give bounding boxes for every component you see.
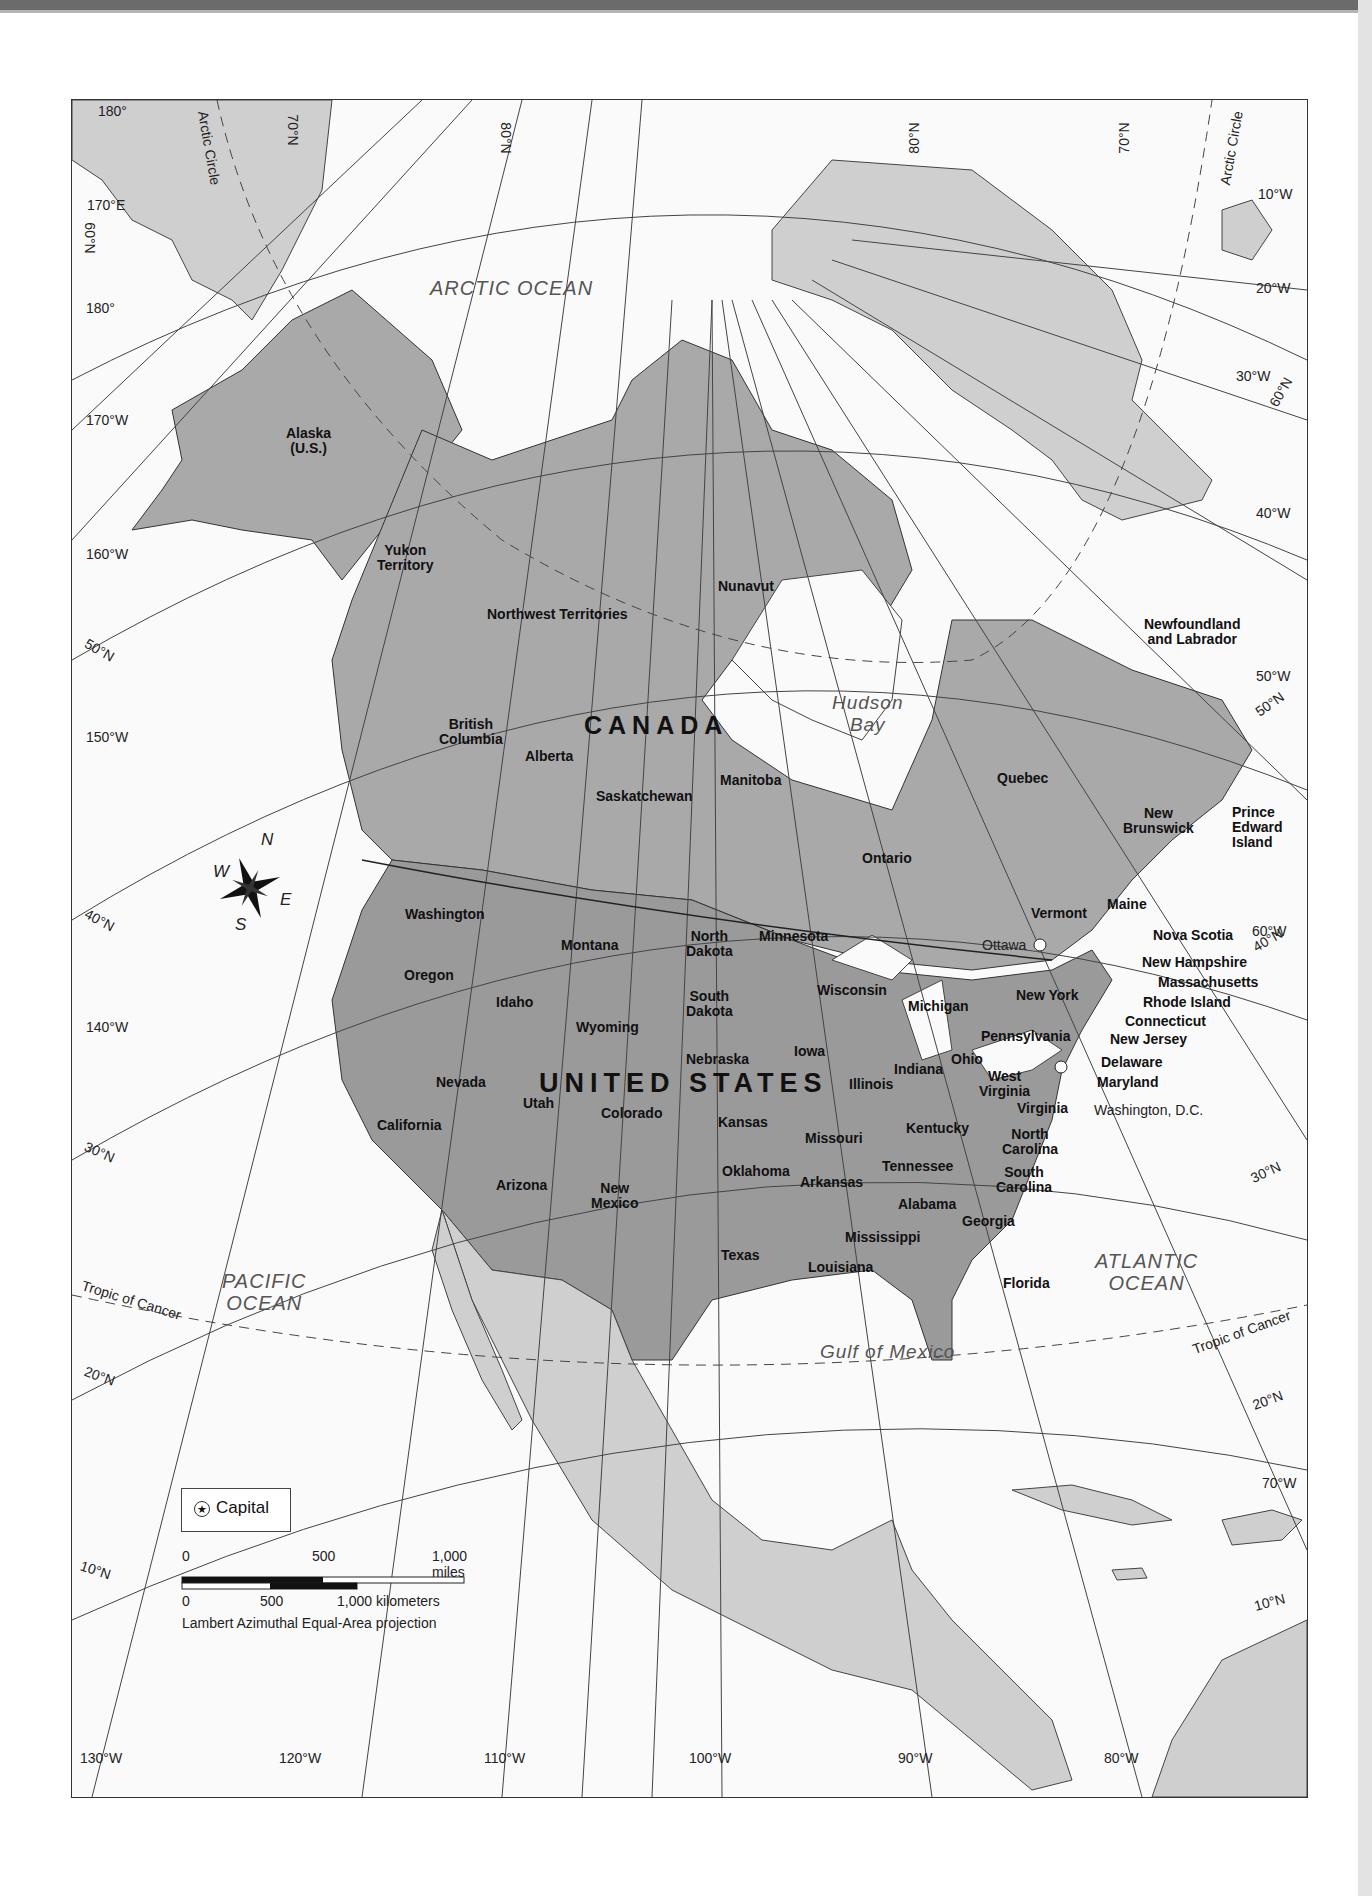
label-alberta: Alberta: [525, 749, 573, 764]
label-virginia: Virginia: [1017, 1101, 1068, 1116]
label-kentucky: Kentucky: [906, 1121, 969, 1136]
grat-70w: 70°W: [1262, 1475, 1296, 1491]
label-united-states: UNITED STATES: [539, 1068, 828, 1099]
label-atlantic-line1: ATLANTIC: [1095, 1250, 1198, 1272]
label-wv-line2: Virginia: [979, 1084, 1030, 1099]
label-nm-line1: New: [591, 1181, 638, 1196]
label-idaho: Idaho: [496, 995, 533, 1010]
label-yukon-line2: Territory: [377, 558, 434, 573]
land-hispaniola: [1222, 1510, 1302, 1545]
label-north-dakota: NorthDakota: [686, 929, 733, 959]
label-nb-line1: New: [1123, 806, 1194, 821]
label-rhode-island: Rhode Island: [1143, 995, 1231, 1010]
land-iceland: [1222, 200, 1272, 260]
legend-capital-label: Capital: [216, 1498, 269, 1518]
compass-rose-icon: [209, 847, 291, 929]
label-sd-line2: Dakota: [686, 1004, 733, 1019]
label-california: California: [377, 1118, 442, 1133]
right-edge: [1358, 0, 1372, 1896]
grat-170e: 170°E: [87, 197, 125, 213]
label-maryland: Maryland: [1097, 1075, 1158, 1090]
label-sc-line1: South: [996, 1165, 1052, 1180]
label-newfoundland: Newfoundlandand Labrador: [1144, 617, 1240, 647]
label-gulf-of-mexico: Gulf of Mexico: [820, 1341, 955, 1363]
label-nfl-line1: Newfoundland: [1144, 617, 1240, 632]
label-pacific-line2: OCEAN: [222, 1292, 306, 1314]
label-delaware: Delaware: [1101, 1055, 1162, 1070]
label-indiana: Indiana: [894, 1062, 943, 1077]
label-montana: Montana: [561, 938, 619, 953]
grat-170w: 170°W: [86, 412, 128, 428]
grat-50w: 50°W: [1256, 668, 1290, 684]
label-wisconsin: Wisconsin: [817, 983, 887, 998]
label-pei-line2: Edward: [1232, 820, 1283, 835]
label-missouri: Missouri: [805, 1131, 863, 1146]
label-new-hampshire: New Hampshire: [1142, 955, 1247, 970]
label-pei-line1: Prince: [1232, 805, 1283, 820]
label-ontario: Ontario: [862, 851, 912, 866]
label-oklahoma: Oklahoma: [722, 1164, 790, 1179]
label-northwest-territories: Northwest Territories: [487, 607, 628, 622]
label-sd-line1: South: [686, 989, 733, 1004]
label-south-carolina: SouthCarolina: [996, 1165, 1052, 1195]
label-quebec: Quebec: [997, 771, 1048, 786]
land-cuba: [1012, 1485, 1172, 1525]
label-hudson-line1: Hudson: [832, 692, 904, 714]
grat-lat-60n-left: 60°N: [82, 222, 98, 253]
label-atlantic-line2: OCEAN: [1095, 1272, 1198, 1294]
label-illinois: Illinois: [849, 1077, 893, 1092]
label-nebraska: Nebraska: [686, 1052, 749, 1067]
grat-160w: 160°W: [86, 546, 128, 562]
label-saskatchewan: Saskatchewan: [596, 789, 693, 804]
grat-90w: 90°W: [898, 1750, 932, 1766]
grat-80w: 80°W: [1104, 1750, 1138, 1766]
label-new-mexico: NewMexico: [591, 1181, 638, 1211]
grat-10w: 10°W: [1258, 186, 1292, 202]
label-alabama: Alabama: [898, 1197, 956, 1212]
label-alaska: Alaska(U.S.): [286, 426, 331, 456]
label-alaska-line2: (U.S.): [286, 441, 331, 456]
land-south-america: [1152, 1620, 1307, 1797]
label-maine: Maine: [1107, 897, 1147, 912]
label-hudson-line2: Bay: [832, 714, 904, 736]
compass-n-label: N: [261, 830, 273, 850]
label-ohio: Ohio: [951, 1052, 983, 1067]
label-new-brunswick: NewBrunswick: [1123, 806, 1194, 836]
map-frame: CANADA UNITED STATES ARCTIC OCEAN PACIFI…: [71, 99, 1308, 1798]
label-nfl-line2: and Labrador: [1144, 632, 1240, 647]
label-arizona: Arizona: [496, 1178, 547, 1193]
label-georgia: Georgia: [962, 1214, 1015, 1229]
label-nc-line1: North: [1002, 1127, 1058, 1142]
label-oregon: Oregon: [404, 968, 454, 983]
grat-left-180-top: 180°: [98, 103, 127, 119]
label-canada: CANADA: [584, 711, 728, 740]
label-nc-line2: Carolina: [1002, 1142, 1058, 1157]
grat-40w: 40°W: [1256, 505, 1290, 521]
compass-w-label: W: [213, 862, 229, 882]
label-prince-edward-island: PrinceEdwardIsland: [1232, 805, 1283, 850]
label-nunavut: Nunavut: [718, 579, 774, 594]
label-pacific-line1: PACIFIC: [222, 1270, 306, 1292]
label-wyoming: Wyoming: [576, 1020, 639, 1035]
land-mexico: [442, 1210, 1072, 1790]
capital-washington-icon: [1055, 1061, 1067, 1073]
scale-km-1000: 1,000 kilometers: [337, 1593, 440, 1609]
label-kansas: Kansas: [718, 1115, 768, 1130]
compass-e-label: E: [280, 890, 291, 910]
label-manitoba: Manitoba: [720, 773, 781, 788]
label-arkansas: Arkansas: [800, 1175, 863, 1190]
label-vermont: Vermont: [1031, 906, 1087, 921]
label-alaska-line1: Alaska: [286, 426, 331, 441]
label-west-virginia: WestVirginia: [979, 1069, 1030, 1099]
label-ottawa: Ottawa: [982, 937, 1026, 953]
label-louisiana: Louisiana: [808, 1260, 873, 1275]
scale-km-500: 500: [260, 1593, 283, 1609]
scale-miles-1000: 1,000 miles: [432, 1548, 482, 1580]
label-connecticut: Connecticut: [1125, 1014, 1206, 1029]
label-washington: Washington: [405, 907, 485, 922]
scale-km-0: 0: [182, 1593, 190, 1609]
label-minnesota: Minnesota: [759, 929, 828, 944]
grat-100w: 100°W: [689, 1750, 731, 1766]
label-colorado: Colorado: [601, 1106, 662, 1121]
grat-120w: 120°W: [279, 1750, 321, 1766]
